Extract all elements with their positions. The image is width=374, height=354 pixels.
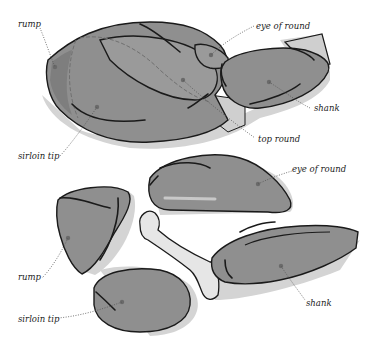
cut-rump: [57, 186, 135, 275]
diagram-canvas: rump eye of round shank top round sirloi…: [0, 0, 374, 354]
label-top-sirloin-tip: sirloin tip: [18, 151, 60, 161]
bottom-shank: [212, 225, 358, 283]
cut-sirloin-tip: [94, 266, 198, 336]
label-bottom-shank: shank: [306, 298, 332, 308]
top-shank: [221, 48, 329, 108]
label-top-top-round: top round: [258, 134, 301, 144]
label-bottom-sirloin-tip: sirloin tip: [18, 314, 60, 324]
label-top-eye-of-round: eye of round: [256, 21, 311, 31]
label-bottom-rump: rump: [18, 272, 42, 282]
label-top-shank: shank: [314, 103, 340, 113]
label-top-rump: rump: [18, 19, 42, 29]
assembled-round: [42, 22, 330, 149]
label-bottom-eye-of-round: eye of round: [292, 164, 347, 174]
cut-eye-of-round: [149, 155, 293, 215]
beef-round-diagram: rump eye of round shank top round sirloi…: [0, 0, 374, 354]
